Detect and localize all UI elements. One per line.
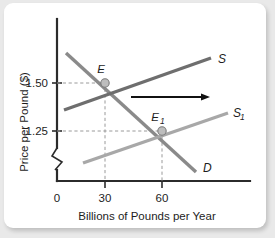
page-background: Price per Pound ($) E [0,0,275,238]
x-axis-title: Billions of Pounds per Year [78,210,216,222]
equilibrium-initial-marker [101,79,109,87]
supply-curve-label: S [218,52,226,66]
demand-curve-label: D [203,161,212,175]
supply-shift-arrow-head [201,94,210,101]
y-tick-label-125: 1.25 [26,125,48,137]
equilibrium-new-label: E [151,111,159,123]
supply-shifted-curve-label-subscript: 1 [240,112,245,122]
x-tick-label-30: 30 [99,192,112,204]
y-axis-break-icon [52,148,62,170]
equilibrium-initial-label: E [97,63,105,75]
equilibrium-new-marker [158,127,166,135]
supply-demand-chart: Price per Pound ($) E [0,0,275,238]
x-tick-label-60: 60 [156,192,169,204]
equilibrium-new-label-subscript: 1 [160,116,165,126]
supply-curve [64,58,211,110]
y-tick-label-150: 1.50 [26,77,48,89]
x-tick-label-0: 0 [54,192,60,204]
